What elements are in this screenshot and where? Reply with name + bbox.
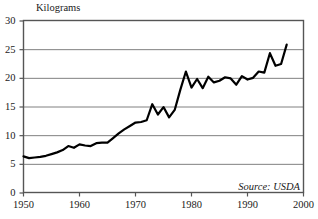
chart-figure: Kilograms 051015202530 19501960197019801… bbox=[0, 0, 317, 219]
y-tick-label: 20 bbox=[0, 72, 16, 83]
x-tick-label: 1990 bbox=[228, 199, 268, 210]
y-tick-label: 15 bbox=[0, 101, 16, 112]
y-tick-label: 30 bbox=[0, 15, 16, 26]
x-tick-label: 1960 bbox=[60, 199, 100, 210]
y-tick-label: 25 bbox=[0, 44, 16, 55]
x-tick-label: 2000 bbox=[284, 199, 318, 210]
source-annotation: Source: USDA bbox=[238, 181, 300, 192]
x-tick-label: 1970 bbox=[116, 199, 156, 210]
data-series-line bbox=[24, 45, 287, 159]
y-tick-label: 0 bbox=[0, 187, 16, 198]
y-tick-label: 5 bbox=[0, 158, 16, 169]
y-tick-label: 10 bbox=[0, 130, 16, 141]
x-tick-label: 1950 bbox=[4, 199, 44, 210]
x-tick-label: 1980 bbox=[172, 199, 212, 210]
